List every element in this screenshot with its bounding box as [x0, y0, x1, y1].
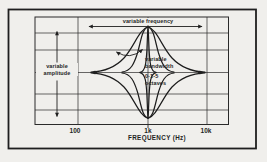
x-axis-tick-100: 100	[60, 127, 90, 135]
figure-page: variable frequency variable amplitude va…	[0, 0, 267, 162]
bandwidth-label: variable bandwidth	[145, 56, 185, 69]
amplitude-label: variable amplitude	[36, 63, 78, 76]
x-axis-title: FREQUENCY (Hz)	[97, 134, 217, 142]
octave-range-label: 0·1-5 octaves	[145, 73, 185, 86]
frequency-label: variable frequency	[105, 18, 191, 26]
